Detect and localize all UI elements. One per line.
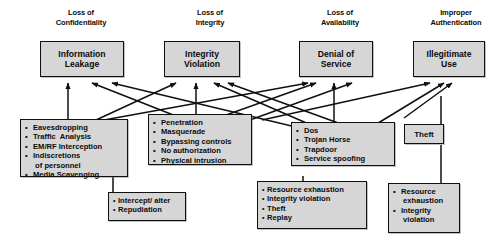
list-item: Resource exhaustion	[262, 185, 362, 194]
list-availability-consequences: Resource exhaustionIntegrity violationTh…	[262, 185, 362, 223]
list-box-integrity-consequences[interactable]: Intercept/ alterRepudiation	[108, 192, 186, 221]
list-item: Integrity	[393, 206, 455, 215]
list-item: Masquerade	[153, 127, 247, 136]
list-item: EM/RF Interception	[25, 142, 123, 151]
header-loss-of-availability: Loss of Availability	[299, 8, 381, 27]
list-item: Replay	[262, 213, 362, 222]
list-item: Intercept/ alter	[113, 196, 181, 205]
list-authentication-consequences: Resource exhaustionIntegrity violation	[393, 187, 455, 225]
list-availability-methods: DosTrojan HorseTrapdoorService spoofing	[296, 126, 390, 164]
list-confidentiality-methods: EavesdroppingTraffic AnalysisEM/RF Inter…	[25, 123, 123, 179]
header-improper-authentication: Improper Authentication	[412, 8, 500, 27]
node-theft[interactable]: Theft	[404, 124, 444, 144]
list-item: Dos	[296, 126, 390, 135]
list-item: Integrity violation	[262, 194, 362, 203]
list-item: exhaustion	[393, 196, 455, 205]
list-item: Penetration	[153, 118, 247, 127]
list-item: Trapdoor	[296, 145, 390, 154]
node-illegitimate-use[interactable]: Illegitimate Use	[413, 41, 485, 77]
list-item: Service spoofing	[296, 154, 390, 163]
list-item: Physical intrusion	[153, 156, 247, 165]
list-box-availability-methods[interactable]: DosTrojan HorseTrapdoorService spoofing	[291, 122, 395, 166]
threat-diagram: Loss of Confidentiality Loss of Integrit…	[0, 0, 504, 241]
node-integrity-violation[interactable]: Integrity Violation	[164, 41, 240, 77]
list-item: violation	[393, 215, 455, 224]
list-item: of personnel	[25, 161, 123, 170]
list-item: Bypassing controls	[153, 137, 247, 146]
list-item: Traffic Analysis	[25, 132, 123, 141]
list-item: Repudiation	[113, 205, 181, 214]
list-box-confidentiality-methods[interactable]: EavesdroppingTraffic AnalysisEM/RF Inter…	[20, 119, 128, 177]
header-loss-of-confidentiality: Loss of Confidentiality	[36, 8, 126, 27]
list-integrity-methods: PenetrationMasqueradeBypassing controlsN…	[153, 118, 247, 165]
list-item: Eavesdropping	[25, 123, 123, 132]
list-item: Theft	[262, 204, 362, 213]
list-integrity-consequences: Intercept/ alterRepudiation	[113, 196, 181, 215]
node-information-leakage[interactable]: Information Leakage	[40, 41, 124, 77]
list-item: Resource	[393, 187, 455, 196]
list-item: Trojan Horse	[296, 135, 390, 144]
list-box-authentication-consequences[interactable]: Resource exhaustionIntegrity violation	[388, 183, 460, 233]
list-box-integrity-methods[interactable]: PenetrationMasqueradeBypassing controlsN…	[148, 114, 252, 165]
list-item: No authorization	[153, 146, 247, 155]
header-loss-of-integrity: Loss of Integrity	[170, 8, 250, 27]
list-item: Indiscretions	[25, 151, 123, 160]
list-box-availability-consequences[interactable]: Resource exhaustionIntegrity violationTh…	[257, 181, 367, 229]
list-item: Media Scavenging	[25, 170, 123, 179]
node-denial-of-service[interactable]: Denial of Service	[299, 41, 373, 77]
